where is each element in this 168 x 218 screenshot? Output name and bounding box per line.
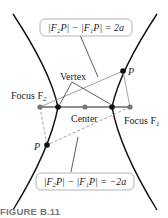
focus-f1-label: Focus F1	[124, 115, 159, 128]
center-label: Center	[71, 113, 98, 124]
figure-caption: FIGURE B.11	[0, 206, 61, 217]
hyperbola-diagram: Vertex Center Focus F2 Focus F1 P P |F₂P…	[0, 0, 168, 218]
left-vertex-point	[55, 104, 61, 110]
upper-p-point	[120, 68, 126, 74]
lower-p-point	[44, 142, 50, 148]
lower-p-label: P	[33, 141, 40, 152]
upper-equation-box: |F₂P| − |F₁P| = 2a	[40, 19, 132, 36]
vertex-label: Vertex	[60, 71, 86, 82]
f2-to-lower-p-line	[40, 107, 47, 145]
vertex-pointer-left	[60, 82, 72, 104]
upper-p-label: P	[127, 66, 134, 77]
lower-equation: |F₂P| − |F₁P| = −2a	[44, 176, 127, 187]
focus-f1-point	[127, 104, 132, 109]
right-vertex-point	[109, 104, 115, 110]
lower-equation-box: |F₂P| − |F₁P| = −2a	[36, 173, 134, 190]
center-point	[82, 104, 87, 109]
focus-f2-point	[37, 104, 42, 109]
focus-f2-label: Focus F2	[11, 90, 47, 103]
lower-equation-pointer	[71, 137, 78, 172]
upper-equation: |F₂P| − |F₁P| = 2a	[48, 22, 124, 33]
